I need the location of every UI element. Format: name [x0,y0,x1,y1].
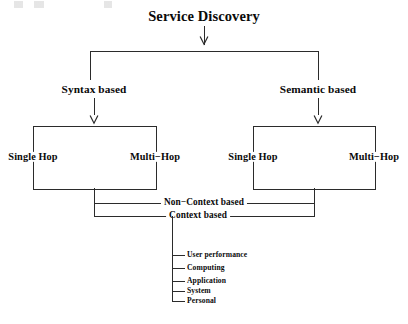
root-arrowhead [200,36,209,45]
context-child-label: Personal [187,297,216,305]
syntax-branch-arrowhead [90,115,99,124]
scan-artifact [8,1,158,8]
context-based-label: Context based [166,211,230,220]
semantic-branch-arrowhead [314,115,323,124]
syntax-single-hop-label: Single Hop [5,152,60,162]
non-context-based-label: Non−Context based [161,198,247,207]
context-child-tick [172,301,185,302]
syntax-branch-stem [94,98,95,115]
semantic-branch-stem [318,98,319,115]
syntax-box-bottom-stem [94,188,95,216]
branch-label-syntax-based: Syntax based [62,84,127,95]
diagram-title: Service Discovery [148,9,260,24]
context-child-label: Application [187,277,226,285]
syntax-multi-hop-label: Multi−Hop [127,152,183,162]
context-child-tick [172,281,185,282]
context-child-label: Computing [187,264,225,272]
context-child-tick [172,268,185,269]
context-child-tick [172,291,185,292]
split-bracket-drop-left [90,51,91,80]
context-child-label: System [187,287,211,295]
split-bracket-drop-right [318,51,319,80]
semantic-box-bottom-stem [314,188,315,216]
context-children-spine [172,216,173,301]
semantic-multi-hop-label: Multi−Hop [346,152,402,162]
semantic-single-hop-label: Single Hop [225,152,280,162]
branch-label-semantic-based: Semantic based [280,84,356,95]
service-discovery-taxonomy-diagram: Service Discovery Syntax based Single Ho… [0,0,408,324]
context-child-tick [172,255,185,256]
context-child-label: User performance [187,251,247,259]
split-bracket-rail [90,51,319,52]
